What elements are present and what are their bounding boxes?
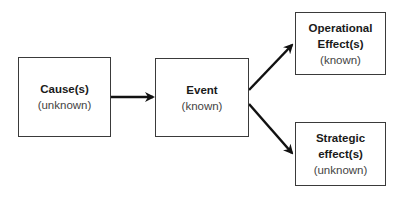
cause-status: (unknown)	[38, 97, 92, 113]
strategic-title-line2: effect(s)	[318, 146, 363, 162]
arrow-event-to-strategic	[249, 104, 292, 153]
operational-title-line1: Operational	[309, 20, 373, 36]
cause-node: Cause(s) (unknown)	[18, 57, 111, 137]
strategic-status: (unknown)	[314, 162, 368, 178]
operational-effects-node: Operational Effect(s) (known)	[295, 12, 386, 75]
strategic-title-line1: Strategic	[316, 130, 365, 146]
event-node: Event (known)	[155, 58, 249, 137]
arrow-event-to-operational	[249, 45, 292, 90]
operational-title-line2: Effect(s)	[317, 36, 363, 52]
operational-status: (known)	[320, 52, 361, 68]
event-title: Event	[186, 82, 217, 98]
strategic-effects-node: Strategic effect(s) (unknown)	[295, 122, 386, 186]
cause-title: Cause(s)	[40, 81, 89, 97]
event-status: (known)	[182, 98, 223, 114]
